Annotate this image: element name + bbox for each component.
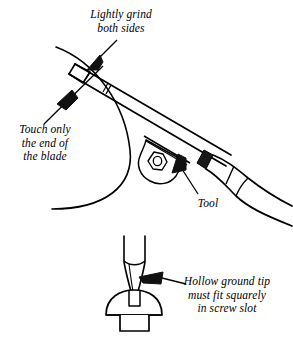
label-hollow-ground: Hollow ground tip must fit squarely in s… <box>163 275 291 316</box>
leader-lightly-grind <box>87 40 117 70</box>
label-tool-line-1: Tool <box>188 197 228 211</box>
label-lightly-grind-line-1: Lightly grind <box>68 8 174 22</box>
label-lightly-grind-line-2: both sides <box>68 22 174 36</box>
label-touch-only-line-2: the end of <box>6 137 84 151</box>
leader-touch-only <box>44 66 103 124</box>
label-hollow-ground-line-3: in screw slot <box>163 302 291 316</box>
label-touch-only: Touch only the end of the blade <box>6 123 84 164</box>
technical-illustration: Lightly grind both sides Touch only the … <box>0 0 293 348</box>
label-hollow-ground-line-2: must fit squarely <box>163 289 291 303</box>
slotted-round-head-screw <box>106 290 162 331</box>
label-touch-only-line-1: Touch only <box>6 123 84 137</box>
label-touch-only-line-3: the blade <box>6 150 84 164</box>
blade-ferrule <box>197 150 213 169</box>
label-lightly-grind: Lightly grind both sides <box>68 8 174 35</box>
screwdriver-handle <box>206 155 292 226</box>
label-hollow-ground-line-1: Hollow ground tip <box>163 275 291 289</box>
label-tool: Tool <box>188 197 228 211</box>
